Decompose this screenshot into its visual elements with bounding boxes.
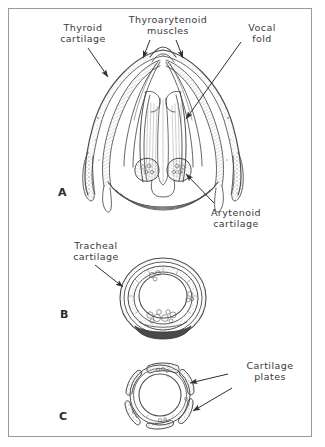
leader-tracheal-cartilage xyxy=(95,265,123,287)
leader-vocal-fold xyxy=(186,42,241,119)
panel-letter-c: C xyxy=(59,410,68,423)
label-arytenoid-cartilage: Arytenoid cartilage xyxy=(196,207,276,229)
panel-c-leaders xyxy=(190,374,232,411)
panel-b-leaders xyxy=(95,265,123,287)
panel-letter-b: B xyxy=(60,308,69,321)
label-vocal-fold: Vocal fold xyxy=(233,22,291,44)
label-tracheal-cartilage: Tracheal cartilage xyxy=(58,240,134,262)
label-thyroid-cartilage: Thyroid cartilage xyxy=(44,22,122,44)
leader-thyroid-cartilage xyxy=(88,48,108,77)
figure-root: Thyroid cartilage Thyroarytenoid muscles… xyxy=(0,0,325,447)
label-cartilage-plates: Cartilage plates xyxy=(232,360,308,382)
panel-c-bronchus xyxy=(125,363,194,429)
leader-cartilage-plates-upper xyxy=(190,374,228,383)
leader-cartilage-plates-lower xyxy=(193,388,232,411)
panel-letter-a: A xyxy=(58,186,67,199)
label-thyroarytenoid-muscles: Thyroarytenoid muscles xyxy=(118,14,218,36)
panel-b-trachea xyxy=(120,258,206,339)
